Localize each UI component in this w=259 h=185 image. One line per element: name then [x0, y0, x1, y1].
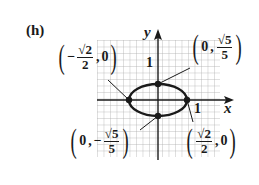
- fraction: √2 2: [196, 127, 212, 155]
- x-value: 0: [201, 39, 208, 55]
- open-paren: (: [193, 30, 199, 64]
- open-paren: (: [71, 124, 77, 158]
- comma: ,: [210, 39, 214, 55]
- numerator: √5: [104, 127, 120, 142]
- comma: ,: [88, 133, 92, 149]
- denominator: 2: [201, 142, 208, 156]
- numerator: √2: [77, 43, 93, 58]
- y-axis-label: y: [142, 24, 151, 40]
- minus-sign: −: [94, 133, 102, 149]
- comma: ,: [215, 133, 219, 149]
- y-value: 0: [220, 133, 227, 149]
- fraction: √5 5: [104, 127, 120, 155]
- x-tick-label: 1: [194, 101, 201, 116]
- point-label-top: ( 0 , √5 5 ): [190, 30, 245, 64]
- denominator: 5: [221, 48, 228, 62]
- close-paren: ): [111, 40, 117, 74]
- close-paren: ): [236, 30, 242, 64]
- open-paren: (: [59, 40, 65, 74]
- fraction: √5 5: [217, 33, 233, 61]
- ellipse-figure: (h) x y 1 1 ( − √2: [0, 0, 259, 185]
- y-value: 0: [101, 49, 108, 65]
- fraction: √2 2: [77, 43, 93, 71]
- point-label-right: ( √2 2 , 0 ): [184, 124, 239, 158]
- close-paren: ): [230, 124, 236, 158]
- open-paren: (: [187, 124, 193, 158]
- x-value: 0: [79, 133, 86, 149]
- close-paren: ): [123, 124, 129, 158]
- minus-sign: −: [67, 49, 75, 65]
- comma: ,: [96, 49, 100, 65]
- denominator: 2: [82, 58, 89, 72]
- point-label-bottom: ( 0 , − √5 5 ): [68, 124, 132, 158]
- y-tick-label: 1: [146, 55, 153, 70]
- x-axis-label: x: [223, 100, 232, 116]
- point-label-left: ( − √2 2 , 0 ): [56, 40, 120, 74]
- numerator: √2: [196, 127, 212, 142]
- numerator: √5: [217, 33, 233, 48]
- denominator: 5: [108, 142, 115, 156]
